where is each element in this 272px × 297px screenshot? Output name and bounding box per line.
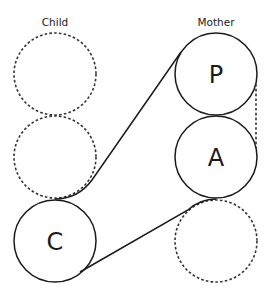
connector-child-to-p — [55, 52, 181, 199]
child-c-label: C — [47, 228, 64, 256]
inheritance-diagram: Child Mother C P A — [0, 0, 272, 297]
child-top-circle — [14, 33, 96, 115]
child-middle-circle — [14, 116, 96, 198]
mother-p-label: P — [209, 61, 223, 89]
connector-c-to-a — [80, 199, 216, 272]
child-column-label: Child — [42, 16, 69, 28]
mother-bottom-circle — [175, 200, 257, 282]
mother-a-label: A — [208, 144, 225, 172]
mother-column-label: Mother — [197, 16, 235, 28]
